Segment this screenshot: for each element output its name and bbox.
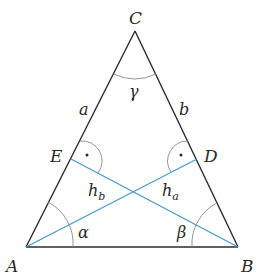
angle-arc-alpha — [48, 202, 73, 247]
angle-arc-beta — [192, 203, 217, 247]
altitude-label-ha-main: h — [162, 181, 172, 200]
angle-arc-gamma — [114, 74, 157, 79]
altitude-label-hb: hb — [88, 181, 105, 203]
triangle — [26, 31, 238, 247]
right-angle-arc-d — [168, 141, 188, 172]
vertex-label-a: A — [4, 256, 18, 276]
altitude-label-hb-sub: b — [98, 190, 105, 203]
side-ac — [26, 31, 135, 247]
right-angle-dot-e — [86, 154, 89, 157]
right-angle-arc-e — [80, 141, 102, 173]
angle-label-beta: β — [176, 223, 186, 242]
side-label-a: a — [79, 100, 89, 119]
altitude-label-hb-main: h — [88, 181, 98, 200]
vertex-label-c: C — [129, 8, 142, 28]
foot-label-e: E — [49, 146, 63, 166]
triangle-diagram: C A B E D a b γ α β hb ha — [0, 0, 270, 279]
altitude-label-ha: ha — [162, 181, 179, 203]
angle-label-alpha: α — [78, 223, 89, 242]
right-angle-dot-d — [180, 154, 183, 157]
vertex-label-b: B — [240, 256, 254, 276]
angle-label-gamma: γ — [129, 82, 139, 101]
foot-label-d: D — [203, 146, 218, 166]
altitude-ha — [26, 159, 197, 247]
altitude-label-ha-sub: a — [172, 190, 179, 203]
side-label-b: b — [179, 100, 189, 119]
altitudes — [26, 159, 238, 247]
altitude-hb — [71, 159, 238, 247]
side-bc — [135, 31, 238, 247]
